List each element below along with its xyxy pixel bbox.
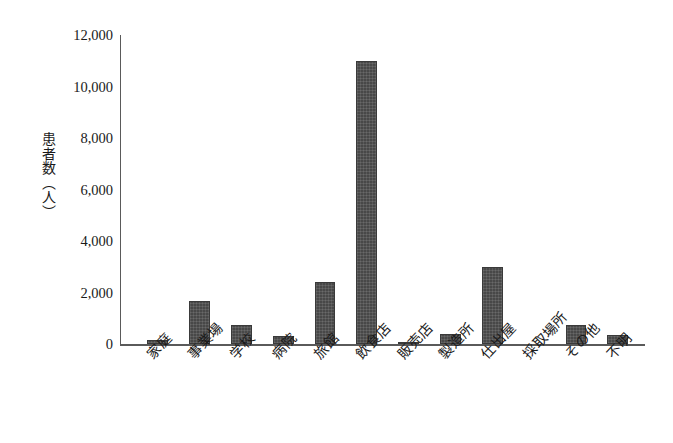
y-axis-tick-labels: 02,0004,0006,0008,00010,00012,000 — [52, 0, 120, 443]
y-axis-tick-label: 12,000 — [52, 28, 120, 43]
y-axis-tick-label: 4,000 — [52, 234, 120, 249]
plot-area — [120, 35, 645, 344]
y-axis-tick-label: 2,000 — [52, 285, 120, 300]
bar-chart: 患者数（人） 02,0004,0006,0008,00010,00012,000… — [0, 0, 673, 443]
y-axis-tick-label: 6,000 — [52, 182, 120, 197]
y-axis-tick-label: 8,000 — [52, 131, 120, 146]
y-axis-title: 患者数（人） — [28, 132, 54, 219]
y-axis-tick-label: 0 — [52, 337, 120, 352]
y-axis-tick-label: 10,000 — [52, 79, 120, 94]
bar-series — [120, 35, 645, 344]
bar — [356, 61, 377, 344]
x-axis-tick-labels: 家庭事業場学校病院旅館飲食店販売店製造所仕出屋採取場所その他不明 — [120, 344, 645, 443]
